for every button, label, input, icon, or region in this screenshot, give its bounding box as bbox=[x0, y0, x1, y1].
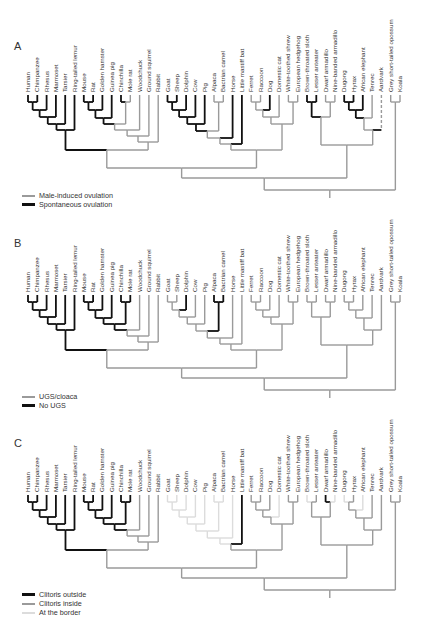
taxon-label: Ferret bbox=[247, 475, 254, 492]
taxon-label: Lesser anteater bbox=[312, 249, 319, 292]
taxon-label: Raccoon bbox=[257, 467, 264, 492]
taxon-label: Guinea pig bbox=[108, 62, 115, 92]
taxon-label: Chinchilla bbox=[117, 265, 124, 292]
taxon-label: Pig bbox=[201, 82, 208, 92]
taxon-label: Woodchuck bbox=[136, 459, 143, 492]
taxon-label: Ring-tailed lemur bbox=[71, 245, 78, 292]
taxon-label: Koala bbox=[396, 476, 403, 492]
taxon-label: Grey short-tailed opossum bbox=[387, 19, 394, 92]
legend-swatch bbox=[22, 404, 35, 407]
taxon-label: Dugong bbox=[340, 70, 347, 92]
taxon-label: Koala bbox=[396, 276, 403, 292]
taxon-label: Little mastiff bat bbox=[238, 49, 245, 92]
taxon-label: Rat bbox=[89, 482, 96, 492]
taxon-label: Alpaca bbox=[210, 473, 217, 492]
taxon-label: Horse bbox=[229, 275, 236, 292]
taxon-label: Alpaca bbox=[210, 73, 217, 92]
taxon-label: Rhesus bbox=[43, 471, 50, 492]
taxon-label: Ring-tailed lemur bbox=[71, 45, 78, 92]
taxon-label: Grey short-tailed opossum bbox=[387, 219, 394, 292]
taxon-label: Mole rat bbox=[126, 469, 133, 492]
taxon-label: Ferret bbox=[247, 275, 254, 292]
taxon-label: European hedgehog bbox=[294, 435, 301, 492]
legend-label: No UGS bbox=[39, 401, 66, 410]
taxon-label: Raccoon bbox=[257, 67, 264, 92]
legend-label: Clitoris inside bbox=[39, 599, 82, 608]
taxon-label: Rabbit bbox=[154, 74, 161, 92]
taxon-label: Golden hamster bbox=[98, 48, 105, 92]
taxon-label: African elephant bbox=[359, 47, 366, 92]
taxon-label: Tarsier bbox=[61, 73, 68, 92]
taxon-label: Ground squirrel bbox=[145, 249, 152, 292]
taxon-label: Bactrian camel bbox=[219, 251, 226, 292]
taxon-label: Sheep bbox=[173, 474, 180, 492]
taxon-label: Alpaca bbox=[210, 273, 217, 292]
taxon-label: Dolphin bbox=[182, 270, 189, 292]
taxon-label: Cow bbox=[191, 479, 198, 492]
taxon-label: Woodchuck bbox=[136, 259, 143, 292]
taxon-label: Grey short-tailed opossum bbox=[387, 419, 394, 492]
taxon-label: Horse bbox=[229, 475, 236, 492]
taxon-label: Domestic cat bbox=[275, 256, 282, 292]
taxon-label: Rabbit bbox=[154, 274, 161, 292]
legend-label: Clitoris outside bbox=[39, 590, 86, 599]
legend-label: Male-induced ovulation bbox=[39, 191, 113, 200]
taxon-label: Dog bbox=[266, 280, 273, 292]
taxon-label: Goat bbox=[164, 478, 171, 492]
taxon-label: African elephant bbox=[359, 247, 366, 292]
taxon-label: Mole rat bbox=[126, 269, 133, 292]
taxon-label: Dolphin bbox=[182, 70, 189, 92]
legend-swatch bbox=[22, 396, 35, 398]
taxon-label: Dolphin bbox=[182, 470, 189, 492]
taxon-label: White-toothed shrew bbox=[284, 35, 291, 92]
taxon-label: Sheep bbox=[173, 74, 180, 92]
taxon-label: Domestic cat bbox=[275, 456, 282, 492]
phylogenetic-tree-b: HumanChimpanzeeRhesusMarmosetTarsierRing… bbox=[0, 200, 435, 400]
taxon-label: Mouse bbox=[80, 73, 87, 92]
taxon-label: Brown-throated sloth bbox=[303, 434, 310, 492]
taxon-label: Golden hamster bbox=[98, 448, 105, 492]
taxon-label: Dog bbox=[266, 80, 273, 92]
phylogenetic-tree-a: HumanChimpanzeeRhesusMarmosetTarsierRing… bbox=[0, 0, 435, 200]
taxon-label: Dwarf armadillo bbox=[322, 48, 329, 92]
legend-swatch bbox=[22, 593, 35, 596]
taxon-label: Ferret bbox=[247, 75, 254, 92]
taxon-label: Brown-throated sloth bbox=[303, 234, 310, 292]
legend-item: Clitoris inside bbox=[22, 599, 86, 608]
taxon-label: Chimpanzee bbox=[33, 57, 40, 92]
taxon-label: Marmoset bbox=[52, 64, 59, 92]
taxon-label: Tenrec bbox=[368, 73, 375, 92]
taxon-label: Human bbox=[24, 471, 31, 492]
taxon-label: Little mastiff bat bbox=[238, 449, 245, 492]
taxon-label: Dwarf armadillo bbox=[322, 448, 329, 492]
taxon-label: Marmoset bbox=[52, 264, 59, 292]
taxon-label: Aardvark bbox=[377, 466, 384, 492]
taxon-label: Raccoon bbox=[257, 267, 264, 292]
panel-a: A HumanChimpanzeeRhesusMarmosetTarsierRi… bbox=[0, 0, 435, 200]
taxon-label: Sheep bbox=[173, 274, 180, 292]
taxon-label: African elephant bbox=[359, 447, 366, 492]
taxon-label: Hyrax bbox=[350, 75, 357, 92]
taxon-label: Nine-banded armadillo bbox=[331, 229, 338, 292]
taxon-label: Domestic cat bbox=[275, 56, 282, 92]
taxon-label: European hedgehog bbox=[294, 235, 301, 292]
legend-item: No UGS bbox=[22, 401, 77, 410]
legend-item: Male-induced ovulation bbox=[22, 191, 113, 200]
taxon-label: Human bbox=[24, 71, 31, 92]
taxon-label: Ground squirrel bbox=[145, 449, 152, 492]
taxon-label: Dugong bbox=[340, 270, 347, 292]
taxon-label: Goat bbox=[164, 78, 171, 92]
taxon-label: Rat bbox=[89, 82, 96, 92]
taxon-label: Guinea pig bbox=[108, 462, 115, 492]
taxon-label: Koala bbox=[396, 76, 403, 92]
taxon-label: Pig bbox=[201, 482, 208, 492]
taxon-label: Bactrian camel bbox=[219, 51, 226, 92]
taxon-label: Tenrec bbox=[368, 473, 375, 492]
legend-label: At the border bbox=[39, 608, 81, 617]
taxon-label: Chinchilla bbox=[117, 465, 124, 492]
taxon-label: Dugong bbox=[340, 470, 347, 492]
taxon-label: Mole rat bbox=[126, 69, 133, 92]
taxon-label: Marmoset bbox=[52, 464, 59, 492]
taxon-label: Ground squirrel bbox=[145, 49, 152, 92]
taxon-label: Dwarf armadillo bbox=[322, 248, 329, 292]
